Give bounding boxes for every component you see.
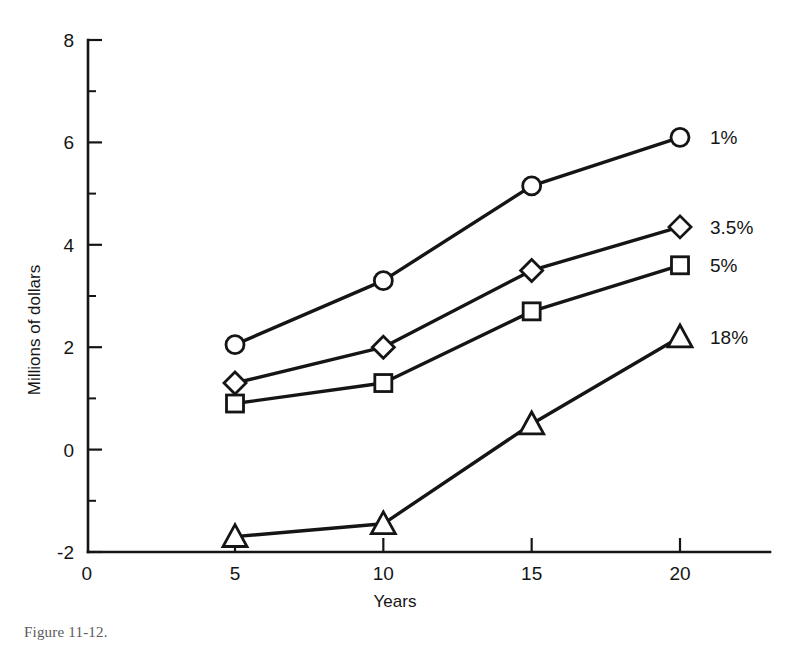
- marker-circle: [374, 272, 392, 290]
- marker-diamond: [224, 372, 246, 394]
- marker-triangle: [520, 412, 544, 434]
- series-label-triangle: 18%: [710, 327, 748, 348]
- y-tick-label: 0: [63, 440, 74, 461]
- y-axis-title: Millions of dollars: [25, 265, 44, 395]
- marker-circle: [523, 177, 541, 195]
- y-axis-tick-labels: -202468: [57, 30, 74, 563]
- marker-square: [227, 395, 244, 412]
- figure-container: -202468 05101520 Years Millions of dolla…: [0, 0, 798, 648]
- x-axis-title: Years: [374, 592, 417, 611]
- series-line-square: [235, 265, 680, 403]
- series-label-diamond: 3.5%: [710, 217, 753, 238]
- figure-caption: Figure 11-12.: [24, 624, 108, 641]
- y-tick-label: -2: [57, 542, 74, 563]
- x-tick-label: 5: [230, 563, 241, 584]
- marker-diamond: [372, 336, 394, 358]
- y-tick-label: 6: [63, 132, 74, 153]
- x-axis-ticks: [235, 538, 680, 552]
- series-line-circle: [235, 137, 680, 344]
- x-axis-tick-labels: 05101520: [81, 563, 690, 584]
- x-tick-label: 15: [521, 563, 542, 584]
- series-triangle: [223, 325, 692, 547]
- x-tick-label: 10: [373, 563, 394, 584]
- marker-diamond: [521, 259, 543, 281]
- marker-triangle: [371, 512, 395, 534]
- series-diamond: [224, 216, 691, 394]
- y-axis-ticks: [88, 40, 102, 552]
- marker-circle: [226, 336, 244, 354]
- line-chart: -202468 05101520 Years Millions of dolla…: [0, 0, 798, 648]
- series-circle: [226, 128, 689, 353]
- y-tick-label: 8: [63, 30, 74, 51]
- y-tick-label: 4: [63, 235, 74, 256]
- marker-square: [375, 375, 392, 392]
- y-tick-label: 2: [63, 337, 74, 358]
- marker-square: [672, 257, 689, 274]
- marker-circle: [671, 128, 689, 146]
- series-line-diamond: [235, 227, 680, 383]
- axes-group: [88, 40, 770, 552]
- marker-square: [523, 303, 540, 320]
- series-labels: 1%3.5%5%18%: [710, 127, 753, 348]
- series-label-circle: 1%: [710, 127, 738, 148]
- marker-diamond: [669, 216, 691, 238]
- marker-triangle: [668, 325, 692, 347]
- series-label-square: 5%: [710, 255, 738, 276]
- x-tick-label: 20: [669, 563, 690, 584]
- x-tick-label: 0: [81, 563, 92, 584]
- series-layer: [223, 128, 692, 546]
- series-square: [227, 257, 689, 412]
